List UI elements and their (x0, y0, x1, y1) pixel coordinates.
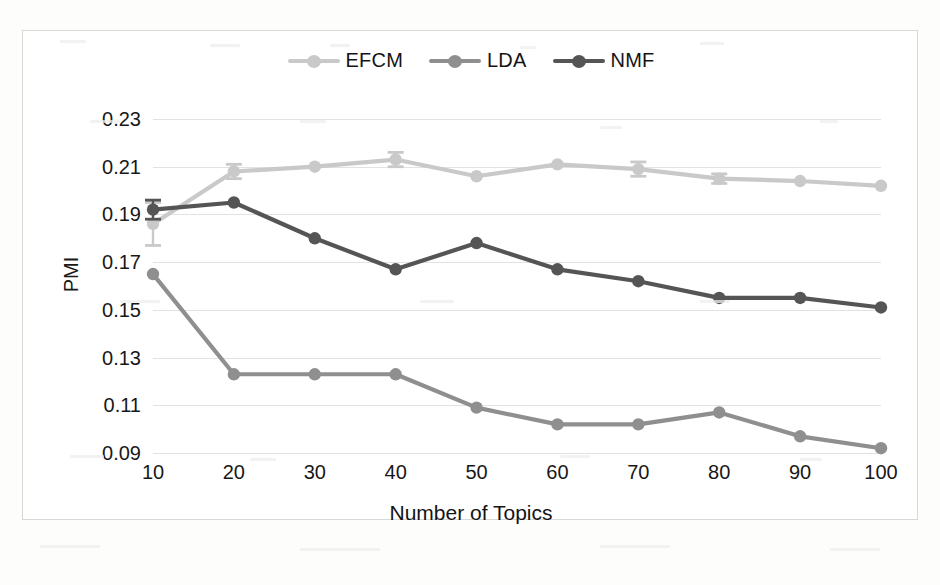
data-point (389, 368, 401, 380)
x-tick-label: 100 (851, 461, 911, 484)
x-axis-title: Number of Topics (23, 501, 919, 525)
data-point (794, 175, 806, 187)
data-point (794, 292, 806, 304)
data-point (551, 158, 563, 170)
data-point (389, 263, 401, 275)
y-tick-label: 0.23 (79, 108, 141, 131)
y-tick-label: 0.21 (79, 155, 141, 178)
x-tick-label: 30 (285, 461, 345, 484)
legend-item-lda[interactable]: LDA (429, 49, 527, 72)
x-tick-label: 60 (527, 461, 587, 484)
series-nmf (145, 196, 887, 313)
legend-swatch-lda-icon (429, 54, 481, 68)
gridline (153, 453, 881, 454)
scan-artifact (820, 120, 838, 123)
chart-legend: EFCMLDANMF (23, 49, 919, 72)
x-tick-label: 90 (770, 461, 830, 484)
y-tick-label: 0.19 (79, 203, 141, 226)
scan-artifact (250, 458, 276, 461)
scan-artifact (330, 44, 350, 47)
data-point (470, 401, 482, 413)
scan-artifact (70, 455, 104, 458)
x-tick-label: 20 (204, 461, 264, 484)
data-point (389, 153, 401, 165)
scan-artifact (520, 46, 536, 49)
data-point (228, 368, 240, 380)
data-point (551, 418, 563, 430)
data-point (632, 275, 644, 287)
data-point (470, 170, 482, 182)
scan-artifact (300, 548, 380, 551)
scan-artifact (210, 44, 240, 47)
scan-artifact (60, 40, 86, 43)
data-point (551, 263, 563, 275)
legend-swatch-nmf-icon (553, 54, 605, 68)
scan-artifact (800, 458, 822, 461)
data-point (713, 172, 725, 184)
scan-artifact (700, 42, 724, 45)
data-point (228, 165, 240, 177)
scan-artifact (120, 300, 160, 303)
data-point (309, 232, 321, 244)
data-point (309, 368, 321, 380)
scan-artifact (300, 120, 326, 123)
data-point (632, 163, 644, 175)
scan-artifact (40, 545, 100, 548)
x-tick-label: 40 (366, 461, 426, 484)
data-point (147, 268, 159, 280)
y-tick-label: 0.13 (79, 346, 141, 369)
chart-page: EFCMLDANMF PMI 0.090.110.130.150.170.190… (0, 0, 940, 585)
legend-swatch-efcm-icon (288, 54, 340, 68)
y-tick-label: 0.17 (79, 251, 141, 274)
data-point (632, 418, 644, 430)
scan-artifact (700, 300, 730, 303)
x-tick-label: 70 (608, 461, 668, 484)
data-point (470, 237, 482, 249)
legend-item-efcm[interactable]: EFCM (288, 49, 403, 72)
legend-label: NMF (611, 49, 655, 72)
data-point (228, 196, 240, 208)
data-point (875, 301, 887, 313)
legend-label: EFCM (346, 49, 403, 72)
scan-artifact (420, 300, 454, 303)
data-point (875, 180, 887, 192)
chart-frame: EFCMLDANMF PMI 0.090.110.130.150.170.190… (22, 30, 918, 520)
x-tick-label: 50 (447, 461, 507, 484)
data-point (309, 161, 321, 173)
scan-artifact (90, 120, 120, 123)
legend-label: LDA (487, 49, 527, 72)
scan-artifact (600, 126, 622, 129)
data-point (794, 430, 806, 442)
y-axis-tick-labels: 0.090.110.130.150.170.190.210.23 (79, 119, 141, 453)
scan-artifact (560, 455, 590, 458)
data-point (713, 406, 725, 418)
y-tick-label: 0.11 (79, 394, 141, 417)
series-layer (153, 119, 881, 453)
legend-item-nmf[interactable]: NMF (553, 49, 655, 72)
scan-artifact (830, 548, 880, 551)
data-point (147, 203, 159, 215)
scan-artifact (600, 545, 670, 548)
data-point (875, 442, 887, 454)
x-tick-label: 80 (689, 461, 749, 484)
x-tick-label: 10 (123, 461, 183, 484)
plot-area (153, 119, 881, 453)
x-axis-tick-labels: 102030405060708090100 (153, 461, 881, 491)
series-efcm (145, 152, 887, 245)
